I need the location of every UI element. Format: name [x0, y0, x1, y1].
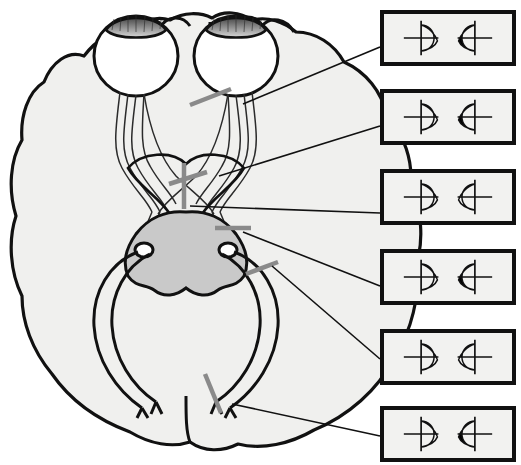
left-visual-field [404, 21, 439, 56]
left-crosshair [404, 180, 439, 215]
field-box-optic-tract[interactable] [380, 249, 516, 305]
left-crosshair [404, 417, 439, 452]
right-visual-field [451, 253, 492, 301]
right-crosshair [458, 100, 493, 135]
right-crosshair [458, 417, 493, 452]
left-visual-field [397, 333, 438, 374]
right-crosshair [458, 180, 493, 215]
right-visual-field [451, 14, 499, 62]
right-crosshair [458, 21, 493, 56]
field-box-optic-radiation[interactable] [380, 329, 516, 385]
left-visual-field [397, 253, 438, 301]
left-visual-field [397, 173, 438, 221]
left-crosshair [404, 260, 439, 295]
right-visual-field [451, 333, 492, 374]
right-crosshair [458, 260, 493, 295]
left-field-defect-fill [397, 333, 421, 357]
right-crosshair [458, 340, 493, 375]
right-visual-field [451, 410, 492, 458]
left-visual-field [397, 93, 438, 141]
diagram-stage [0, 0, 521, 465]
right-visual-field [451, 93, 499, 141]
left-crosshair [404, 100, 439, 135]
field-box-optic-nerve[interactable] [380, 10, 516, 66]
field-box-chiasm-lateral[interactable] [380, 89, 516, 145]
field-box-chiasm-midline[interactable] [380, 169, 516, 225]
field-box-occipital-cortex[interactable] [380, 406, 516, 462]
left-crosshair [404, 340, 439, 375]
right-visual-field [458, 173, 499, 221]
left-visual-field [397, 410, 438, 458]
right-eye [194, 15, 278, 96]
left-crosshair [404, 21, 439, 56]
left-eye [94, 15, 178, 96]
